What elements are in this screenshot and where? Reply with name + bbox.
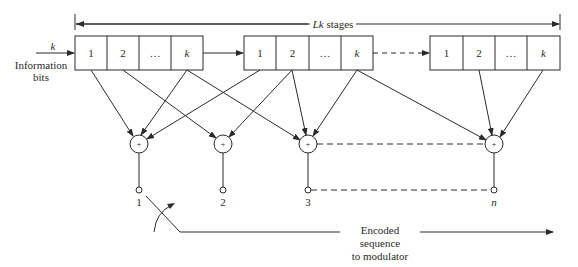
register-3-cell-1: 1 xyxy=(430,36,463,70)
register-2-cell-k: k xyxy=(341,36,373,70)
register-1-cell-2: 2 xyxy=(107,36,139,70)
output-terminal-3 xyxy=(305,187,311,193)
input-label-line2: bits xyxy=(6,71,76,83)
rotation-arrow xyxy=(154,205,172,232)
register-1-cell-k: k xyxy=(171,36,203,70)
output-terminal-n xyxy=(491,187,497,193)
register-2-cell-1: 1 xyxy=(244,36,276,70)
register-2-cell-2: 2 xyxy=(276,36,309,70)
register-3-cell-2: 2 xyxy=(463,36,495,70)
output-terminal-2 xyxy=(220,187,226,193)
output-terminal-1 xyxy=(136,187,142,193)
output-label-n: n xyxy=(488,196,500,208)
output-label-3: 3 xyxy=(302,196,314,208)
register-1-cell-ellipsis: … xyxy=(139,36,171,70)
register-3-cell-ellipsis: … xyxy=(495,36,527,70)
register-1-cell-1: 1 xyxy=(75,36,107,70)
svg-text:+: + xyxy=(306,140,311,149)
svg-text:+: + xyxy=(492,140,497,149)
input-symbol: k xyxy=(46,40,60,52)
input-label-line1: Information xyxy=(6,59,76,71)
output-label-2: 2 xyxy=(217,196,229,208)
output-label-1: 1 xyxy=(133,196,145,208)
svg-text:+: + xyxy=(137,140,142,149)
output-label-line2: sequence xyxy=(340,237,420,249)
svg-text:+: + xyxy=(221,140,226,149)
register-2-cell-ellipsis: … xyxy=(309,36,341,70)
output-label-line3: to modulator xyxy=(330,250,430,262)
register-3-cell-k: k xyxy=(527,36,560,70)
span-label: Lk stages xyxy=(310,18,356,30)
output-label-line1: Encoded xyxy=(340,224,420,236)
commutator-switch xyxy=(146,196,180,232)
